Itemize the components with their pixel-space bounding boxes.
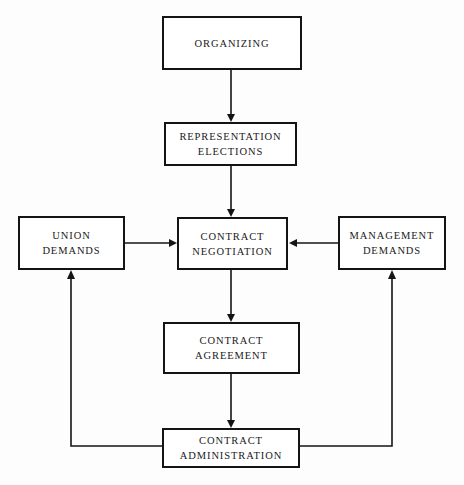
- node-contract-agreement[interactable]: CONTRACT AGREEMENT: [163, 322, 300, 374]
- flowchart-page: ORGANIZING REPRESENTATION ELECTIONS UNIO…: [0, 0, 464, 485]
- node-union-demands[interactable]: UNION DEMANDS: [18, 216, 125, 270]
- node-contract-negotiation-label: CONTRACT NEGOTIATION: [192, 229, 272, 259]
- edge-administration-to-management-feedback: [300, 270, 396, 446]
- node-management-demands[interactable]: MANAGEMENT DEMANDS: [338, 216, 446, 270]
- edge-negotiation-to-agreement: [227, 270, 235, 322]
- node-representation-elections[interactable]: REPRESENTATION ELECTIONS: [164, 122, 297, 166]
- node-management-demands-label: MANAGEMENT DEMANDS: [350, 228, 435, 258]
- node-organizing[interactable]: ORGANIZING: [162, 16, 302, 70]
- node-contract-administration[interactable]: CONTRACT ADMINISTRATION: [162, 428, 300, 468]
- edge-organizing-to-elections: [227, 70, 235, 122]
- edge-elections-to-negotiation: [227, 166, 235, 217]
- edge-management-to-negotiation: [289, 239, 338, 247]
- node-contract-administration-label: CONTRACT ADMINISTRATION: [180, 433, 282, 463]
- node-contract-agreement-label: CONTRACT AGREEMENT: [195, 333, 268, 363]
- node-union-demands-label: UNION DEMANDS: [42, 228, 100, 258]
- node-contract-negotiation[interactable]: CONTRACT NEGOTIATION: [177, 217, 288, 270]
- node-organizing-label: ORGANIZING: [195, 36, 270, 51]
- edge-administration-to-union-feedback: [67, 270, 162, 446]
- node-representation-elections-label: REPRESENTATION ELECTIONS: [179, 129, 281, 159]
- edge-agreement-to-administration: [227, 374, 235, 428]
- edge-union-to-negotiation: [125, 239, 177, 247]
